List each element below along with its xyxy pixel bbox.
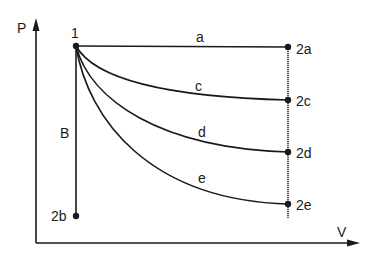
state-2e-label: 2e xyxy=(296,197,312,213)
state-2b-label: 2b xyxy=(51,208,67,224)
v-axis-label: V xyxy=(337,224,347,240)
process-c-label: c xyxy=(195,78,202,94)
state-2a-dot xyxy=(285,44,291,50)
state-2d-label: 2d xyxy=(296,145,312,161)
state-2e-dot xyxy=(285,201,291,207)
v-axis-arrow-icon xyxy=(347,240,360,247)
state-2c-label: 2c xyxy=(296,93,311,109)
state-2c-dot xyxy=(285,97,291,103)
p-axis-arrow-icon xyxy=(33,18,40,31)
process-d-label: d xyxy=(198,124,206,140)
pv-diagram: P V 1 2a 2c 2d 2e 2b a B c d e xyxy=(0,0,371,262)
state-2b-dot xyxy=(73,213,79,219)
process-b-label: B xyxy=(60,125,69,141)
process-c-path xyxy=(76,46,288,100)
process-a-label: a xyxy=(196,29,204,45)
state-2d-dot xyxy=(285,149,291,155)
state-2a-label: 2a xyxy=(296,41,312,57)
process-e-label: e xyxy=(198,170,206,186)
process-e-path xyxy=(76,46,288,204)
state-1-label: 1 xyxy=(71,25,79,41)
process-a-path xyxy=(76,46,288,47)
state-1-dot xyxy=(73,43,79,49)
p-axis-label: P xyxy=(17,20,26,36)
